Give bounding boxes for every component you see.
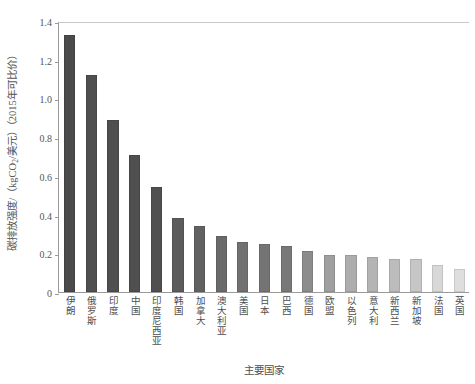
y-axis-tick-labels: 00.20.40.60.81.01.21.4 — [22, 22, 56, 293]
y-axis-title: 碳排放强度/（kgCO2/美元）（2015年可比价） — [0, 0, 22, 300]
bar — [410, 259, 421, 292]
x-axis-tick-label: 英国 — [452, 296, 464, 316]
x-axis-tick-label-text: 英国 — [453, 296, 463, 316]
x-axis-tick-label: 加拿大 — [193, 296, 205, 326]
x-axis-tick-label: 伊朗 — [63, 296, 75, 316]
x-axis-tick-label-text: 意大利 — [367, 296, 377, 326]
bar — [302, 251, 313, 292]
bar — [64, 35, 75, 292]
x-axis-tick-label-text: 中国 — [129, 296, 139, 316]
x-axis-tick-label-text: 澳大利亚 — [215, 296, 225, 336]
y-axis-tick-label: 0 — [47, 288, 52, 299]
x-axis-tick-label-text: 新加坡 — [410, 296, 420, 326]
bar — [281, 246, 292, 292]
y-axis-tick-mark — [55, 139, 59, 140]
x-axis-tick-label-text: 加拿大 — [194, 296, 204, 326]
y-axis-tick-label: 0.4 — [40, 210, 53, 221]
x-axis-tick-label: 印度尼西亚 — [149, 296, 161, 346]
x-axis-tick-label-text: 巴西 — [280, 296, 290, 316]
y-axis-tick-mark — [55, 178, 59, 179]
bar — [194, 226, 205, 292]
y-axis-tick-mark — [55, 100, 59, 101]
x-axis-tick-label: 德国 — [301, 296, 313, 316]
x-axis-tick-label: 新加坡 — [409, 296, 421, 326]
bar — [216, 236, 227, 292]
y-axis-title-pre: 碳排放强度/（kgCO — [7, 162, 18, 250]
y-axis-tick-label: 1.2 — [40, 55, 53, 66]
x-axis-tick-label: 澳大利亚 — [214, 296, 226, 336]
bar — [324, 255, 335, 292]
x-axis-tick-label: 以色列 — [344, 296, 356, 326]
bar — [432, 265, 443, 292]
x-axis-tick-label: 新西兰 — [387, 296, 399, 326]
x-axis-tick-label: 印度 — [106, 296, 118, 316]
x-axis-tick-label-text: 印度尼西亚 — [150, 296, 160, 346]
x-axis-tick-label-text: 印度 — [107, 296, 117, 316]
x-axis-tick-label: 俄罗斯 — [84, 296, 96, 326]
x-axis-tick-label-text: 俄罗斯 — [85, 296, 95, 326]
y-axis-tick-label: 0.2 — [40, 249, 53, 260]
x-axis-tick-label-text: 日本 — [259, 296, 269, 316]
bar — [172, 218, 183, 292]
x-axis-tick-label: 欧盟 — [322, 296, 334, 316]
bar — [389, 259, 400, 292]
x-axis-tick-label: 中国 — [128, 296, 140, 316]
bar — [237, 242, 248, 292]
x-axis-title: 主要国家 — [58, 362, 469, 377]
bar — [107, 120, 118, 292]
bar — [367, 257, 378, 292]
x-axis-tick-label-text: 以色列 — [345, 296, 355, 326]
bar-chart: 碳排放强度/（kgCO2/美元）（2015年可比价） 00.20.40.60.8… — [0, 0, 475, 384]
x-axis-tick-label-text: 法国 — [432, 296, 442, 316]
y-axis-tick-mark — [55, 62, 59, 63]
y-axis-tick-mark — [55, 23, 59, 24]
x-axis-tick-label: 韩国 — [171, 296, 183, 316]
bar — [454, 269, 465, 292]
x-axis-tick-label: 美国 — [236, 296, 248, 316]
bar — [129, 155, 140, 292]
y-axis-title-text: 碳排放强度/（kgCO2/美元）（2015年可比价） — [4, 50, 19, 251]
bar — [259, 244, 270, 292]
y-axis-tick-label: 1.4 — [40, 17, 53, 28]
x-axis-tick-label: 巴西 — [279, 296, 291, 316]
y-axis-tick-label: 1.0 — [40, 94, 53, 105]
x-axis-tick-label: 法国 — [431, 296, 443, 316]
x-axis-tick-label-text: 欧盟 — [323, 296, 333, 316]
bar — [86, 75, 97, 292]
y-axis-title-subscript: 2 — [11, 159, 20, 163]
x-axis-tick-label-text: 伊朗 — [64, 296, 74, 316]
bars-layer — [59, 23, 469, 292]
plot-area — [58, 22, 469, 293]
x-axis-tick-label: 意大利 — [366, 296, 378, 326]
x-axis-tick-label-text: 韩国 — [172, 296, 182, 316]
x-axis-tick-label-text: 美国 — [237, 296, 247, 316]
x-axis-tick-label-text: 新西兰 — [388, 296, 398, 326]
x-axis-tick-label: 日本 — [258, 296, 270, 316]
y-axis-tick-mark — [55, 255, 59, 256]
bar — [345, 255, 356, 292]
y-axis-tick-mark — [55, 217, 59, 218]
y-axis-tick-label: 0.6 — [40, 171, 53, 182]
bar — [151, 187, 162, 292]
x-axis-tick-label-text: 德国 — [302, 296, 312, 316]
y-axis-title-post: /美元）（2015年可比价） — [7, 50, 18, 159]
x-axis-tick-labels: 伊朗俄罗斯印度中国印度尼西亚韩国加拿大澳大利亚美国日本巴西德国欧盟以色列意大利新… — [58, 295, 469, 357]
y-axis-tick-label: 0.8 — [40, 133, 53, 144]
